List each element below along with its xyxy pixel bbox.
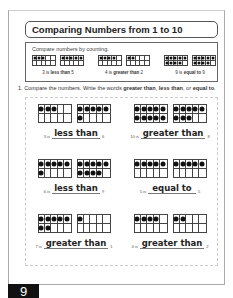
ten-frame [32, 55, 56, 66]
answer-field[interactable]: greater than [140, 239, 205, 249]
example-item: 4 is greater than 2 [98, 55, 150, 75]
empty-cell [199, 114, 205, 122]
number-a: 5 is [140, 189, 146, 194]
empty-cell [79, 61, 83, 65]
ten-frame [173, 214, 207, 233]
counter-dot-cell [64, 215, 70, 224]
number-a: 6 is [44, 189, 50, 194]
empty-cell [64, 224, 70, 232]
number-b: 8 [207, 134, 209, 139]
ten-frame [192, 55, 216, 66]
ten-frame [126, 55, 150, 66]
empty-cell [64, 114, 70, 122]
empty-cell [51, 61, 55, 65]
ten-frame [77, 214, 111, 233]
ten-frame [173, 159, 207, 178]
answer-field[interactable]: greater than [141, 129, 206, 139]
ten-frame [60, 55, 84, 66]
empty-cell [103, 215, 109, 224]
number-a: 3 is [44, 134, 50, 139]
page-title: Comparing Numbers from 1 to 10 [25, 21, 218, 38]
ten-frame [134, 214, 168, 233]
empty-cell [64, 105, 70, 114]
empty-cell [183, 61, 187, 65]
empty-cell [199, 215, 205, 224]
empty-cell [103, 224, 109, 232]
number-b: 2 [206, 244, 208, 249]
ten-frame [173, 104, 207, 123]
counter-dot-cell [103, 105, 109, 114]
empty-cell [103, 114, 109, 122]
page-number: 9 [8, 284, 39, 298]
problem: 10 isgreater than8 [126, 104, 214, 139]
ten-frame [134, 159, 168, 178]
counter-dot-cell [199, 160, 205, 169]
number-b: 1 [110, 244, 112, 249]
number-b: 5 [198, 189, 200, 194]
example-item: 9 is equal to 9 [164, 55, 216, 75]
problem: 4 isgreater than2 [126, 214, 214, 249]
empty-cell [160, 224, 166, 232]
ten-frame [164, 55, 188, 66]
counter-dot-cell [160, 114, 166, 122]
number-a: 7 is [35, 244, 41, 249]
number-a: 10 is [130, 134, 138, 139]
example-intro: Compare numbers by counting. [32, 46, 109, 52]
ten-frame [77, 104, 111, 123]
answer-field[interactable]: less than [52, 129, 100, 139]
empty-cell [145, 61, 149, 65]
ten-frame [77, 159, 111, 178]
number-b: 9 [102, 189, 104, 194]
instruction-text: 1. Compare the numbers. Write the words … [18, 85, 218, 92]
ten-frame [38, 104, 72, 123]
answer-field[interactable]: equal to [148, 184, 196, 194]
counter-dot-cell [160, 105, 166, 114]
empty-cell [64, 169, 70, 177]
exercise-box: 3 isless than6 10 isgreater than8 6 isle… [25, 97, 218, 266]
empty-cell [117, 61, 121, 65]
counter-dot-cell [160, 160, 166, 169]
example-label: 9 is equal to 9 [164, 70, 216, 75]
empty-cell [103, 169, 109, 177]
problem: 6 isless than9 [30, 159, 118, 194]
example-label: 3 is less than 5 [32, 70, 84, 75]
ten-frame [98, 55, 122, 66]
problem: 5 isequal to5 [126, 159, 214, 194]
problem: 7 isgreater than1 [30, 214, 118, 249]
counter-dot-cell [64, 160, 70, 169]
answer-field[interactable]: greater than [44, 239, 109, 249]
ten-frame [38, 159, 72, 178]
empty-cell [160, 169, 166, 177]
counter-dot-cell [103, 160, 109, 169]
counter-dot-cell [199, 105, 205, 114]
ten-frame [134, 104, 168, 123]
number-a: 4 is [131, 244, 137, 249]
answer-field[interactable]: less than [52, 184, 100, 194]
empty-cell [211, 61, 215, 65]
problem: 3 isless than6 [30, 104, 118, 139]
empty-cell [199, 169, 205, 177]
empty-cell [199, 224, 205, 232]
number-b: 6 [102, 134, 104, 139]
example-box: Compare numbers by counting. 3 is less t… [25, 42, 218, 82]
empty-cell [160, 215, 166, 224]
ten-frame [38, 214, 72, 233]
example-label: 4 is greater than 2 [98, 70, 150, 75]
example-item: 3 is less than 5 [32, 55, 84, 75]
